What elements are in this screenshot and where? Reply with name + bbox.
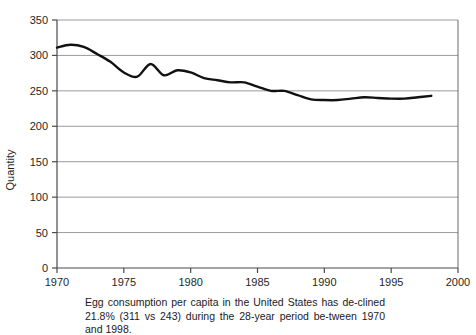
x-tick-label: 2000 <box>446 276 470 288</box>
x-tick-label: 1975 <box>112 276 136 288</box>
x-tick-label: 1985 <box>245 276 269 288</box>
x-tick-label: 1995 <box>379 276 403 288</box>
figure-caption: Egg consumption per capita in the United… <box>85 296 385 335</box>
data-series-line <box>57 45 431 100</box>
line-chart: 050100150200250300350 197019751980198519… <box>0 0 476 290</box>
y-tick-label: 100 <box>30 191 48 203</box>
y-tick-label: 250 <box>30 85 48 97</box>
y-tick-label: 150 <box>30 156 48 168</box>
x-axis-tick-labels: 1970197519801985199019952000 <box>45 276 470 288</box>
y-tick-label: 50 <box>36 227 48 239</box>
y-axis-tick-labels: 050100150200250300350 <box>30 14 48 274</box>
y-axis-title: Quantity <box>4 149 16 190</box>
y-tick-label: 200 <box>30 120 48 132</box>
y-tick-label: 0 <box>42 262 48 274</box>
x-axis-ticks <box>57 268 458 273</box>
y-axis-ticks <box>52 20 57 268</box>
figure-container: 050100150200250300350 197019751980198519… <box>0 0 476 335</box>
series-line-egg-consumption <box>57 45 431 100</box>
y-tick-label: 350 <box>30 14 48 26</box>
x-tick-label: 1990 <box>312 276 336 288</box>
x-tick-label: 1970 <box>45 276 69 288</box>
grid-lines <box>57 20 458 233</box>
y-tick-label: 300 <box>30 49 48 61</box>
x-tick-label: 1980 <box>178 276 202 288</box>
